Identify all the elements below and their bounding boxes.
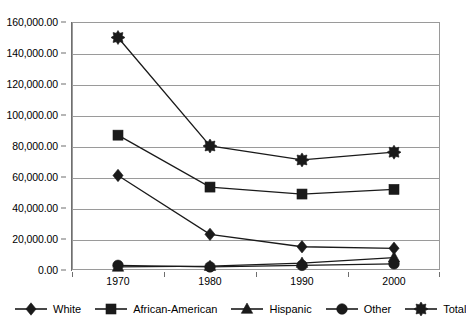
x-tick-mark <box>256 272 257 277</box>
series-white <box>113 169 399 254</box>
data-point <box>205 262 216 273</box>
y-tick-label: 0.00 <box>38 265 58 276</box>
data-point <box>297 241 307 253</box>
circle-legend-icon <box>325 301 359 317</box>
data-point <box>111 31 125 45</box>
series-layer <box>72 22 440 270</box>
legend-label: White <box>53 303 81 315</box>
triangle-legend-icon <box>230 301 264 317</box>
data-point <box>295 153 309 167</box>
y-tick-label: 60,000.00 <box>12 172 58 183</box>
data-point <box>205 182 215 192</box>
data-point <box>389 259 400 270</box>
y-tick-label: 140,000.00 <box>6 48 58 59</box>
x-axis: 1970198019902000 <box>72 272 440 292</box>
data-point <box>297 189 307 199</box>
data-point <box>203 139 217 153</box>
series-svg <box>72 22 440 270</box>
y-tick-label: 160,000.00 <box>6 17 58 28</box>
data-point <box>113 130 123 140</box>
series-line <box>118 175 394 248</box>
square-legend-icon <box>94 301 128 317</box>
legend-item-african-american[interactable]: African-American <box>94 301 217 317</box>
legend-label: Total <box>443 303 466 315</box>
x-tick-mark <box>439 272 440 277</box>
y-tick-mark <box>61 22 66 23</box>
data-point <box>389 184 399 194</box>
starburst-legend-icon <box>404 301 438 317</box>
data-point <box>205 228 215 240</box>
series-line <box>118 135 394 194</box>
y-tick-label: 20,000.00 <box>12 234 58 245</box>
data-point <box>387 145 401 159</box>
legend-label: Hispanic <box>269 303 311 315</box>
y-tick-mark <box>61 177 66 178</box>
y-tick-mark <box>61 115 66 116</box>
data-point <box>297 260 308 271</box>
y-tick-mark <box>61 270 66 271</box>
legend-item-white[interactable]: White <box>14 301 81 317</box>
y-tick-mark <box>61 239 66 240</box>
x-tick-label: 1980 <box>198 276 221 287</box>
x-tick-mark <box>164 272 165 277</box>
series-line <box>118 38 394 160</box>
y-tick-label: 80,000.00 <box>12 141 58 152</box>
y-tick-mark <box>61 53 66 54</box>
chart-legend: WhiteAfrican-AmericanHispanicOtherTotal <box>0 296 458 322</box>
series-other <box>113 259 400 273</box>
y-tick-label: 100,000.00 <box>6 110 58 121</box>
data-point <box>113 169 123 181</box>
legend-item-other[interactable]: Other <box>325 301 392 317</box>
x-tick-label: 1990 <box>290 276 313 287</box>
x-tick-label: 1970 <box>106 276 129 287</box>
x-tick-label: 2000 <box>382 276 405 287</box>
legend-label: Other <box>364 303 392 315</box>
legend-item-hispanic[interactable]: Hispanic <box>230 301 311 317</box>
y-tick-label: 40,000.00 <box>12 203 58 214</box>
series-african-american <box>113 130 399 199</box>
diamond-legend-icon <box>14 301 48 317</box>
y-axis: 0.0020,000.0040,000.0060,000.0080,000.00… <box>0 22 66 270</box>
legend-item-total[interactable]: Total <box>404 301 466 317</box>
x-tick-mark <box>348 272 349 277</box>
x-tick-mark <box>72 272 73 277</box>
series-total <box>111 31 401 167</box>
data-point <box>113 260 124 271</box>
y-tick-label: 120,000.00 <box>6 79 58 90</box>
y-tick-mark <box>61 146 66 147</box>
series-hispanic <box>112 252 399 272</box>
y-tick-mark <box>61 208 66 209</box>
y-tick-mark <box>61 84 66 85</box>
legend-label: African-American <box>133 303 217 315</box>
